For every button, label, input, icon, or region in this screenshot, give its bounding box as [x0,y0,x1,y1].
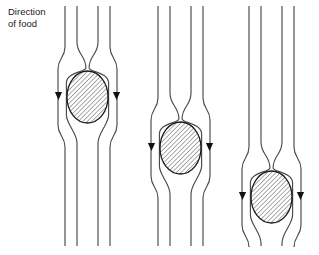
caption-line-1: Direction [8,6,46,17]
caption-line-2: of food [8,18,37,29]
peristalsis-diagram: Direction of food [0,0,319,255]
figure-root: Direction of food [0,0,319,255]
